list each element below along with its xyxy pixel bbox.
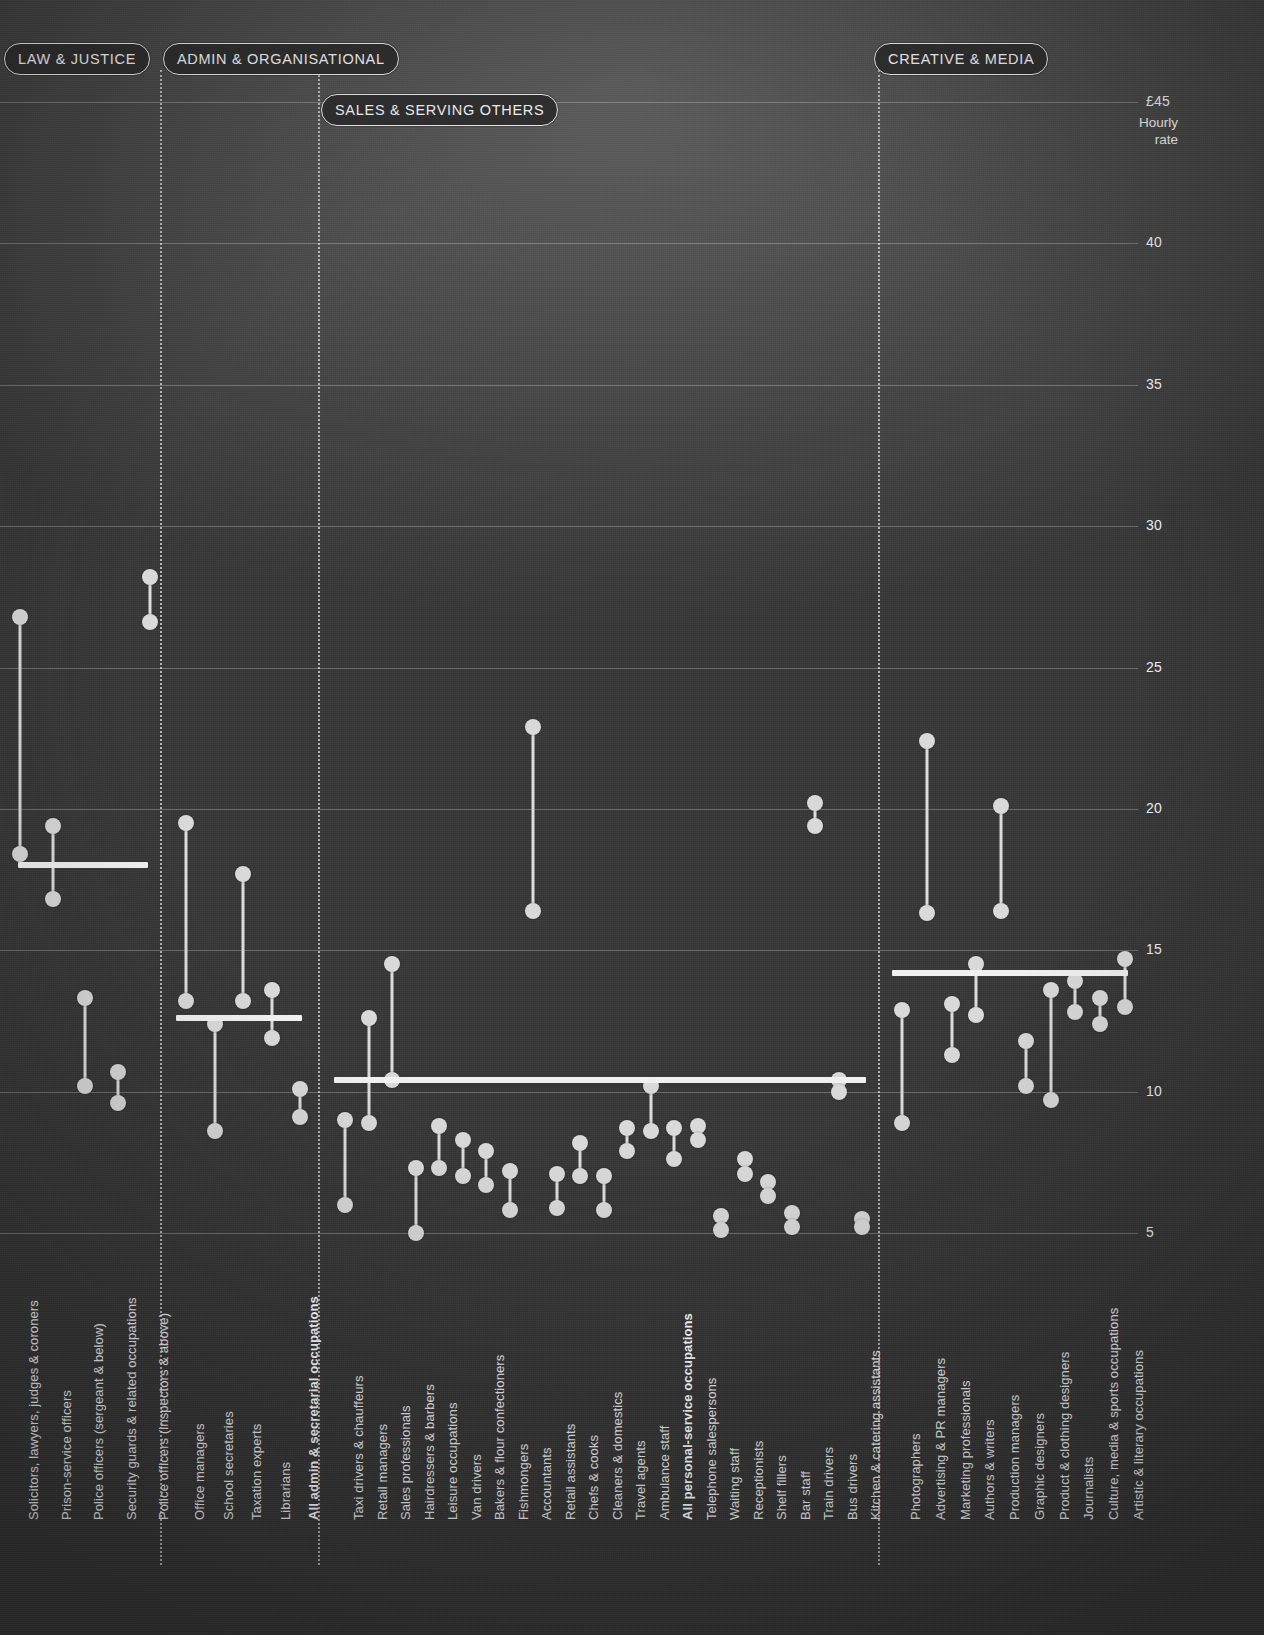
data-point-high[interactable]: [142, 569, 158, 585]
data-point-low[interactable]: [142, 614, 158, 630]
data-point-low[interactable]: [207, 1123, 223, 1139]
dumbbell-stem: [925, 741, 928, 913]
data-point-low[interactable]: [110, 1095, 126, 1111]
data-point-high[interactable]: [1018, 1033, 1034, 1049]
data-point-high[interactable]: [666, 1120, 682, 1136]
group-chip-admin[interactable]: ADMIN & ORGANISATIONAL: [163, 43, 399, 75]
data-point-low[interactable]: [760, 1188, 776, 1204]
data-point-high[interactable]: [455, 1132, 471, 1148]
data-point-high[interactable]: [549, 1166, 565, 1182]
group-chip-law[interactable]: LAW & JUSTICE: [4, 43, 150, 75]
data-point-high[interactable]: [12, 609, 28, 625]
data-point-high[interactable]: [502, 1163, 518, 1179]
data-point-high[interactable]: [292, 1081, 308, 1097]
data-point-low[interactable]: [666, 1151, 682, 1167]
x-axis-label: Chefs & cooks: [586, 1435, 601, 1520]
data-point-low[interactable]: [807, 818, 823, 834]
dumbbell-stem: [84, 998, 87, 1086]
data-point-high[interactable]: [110, 1064, 126, 1080]
data-point-low[interactable]: [478, 1177, 494, 1193]
data-point-high[interactable]: [919, 733, 935, 749]
data-point-low[interactable]: [408, 1225, 424, 1241]
data-point-high[interactable]: [1092, 990, 1108, 1006]
data-point-low[interactable]: [713, 1222, 729, 1238]
data-point-low[interactable]: [77, 1078, 93, 1094]
data-point-high[interactable]: [572, 1135, 588, 1151]
y-axis-tick-10: 10: [1146, 1083, 1162, 1099]
gridline-35: [0, 385, 1138, 386]
group-chip-sales[interactable]: SALES & SERVING OTHERS: [321, 94, 558, 126]
x-axis-label: School secretaries: [221, 1411, 236, 1520]
data-point-low[interactable]: [264, 1030, 280, 1046]
data-point-low[interactable]: [549, 1200, 565, 1216]
data-point-low[interactable]: [737, 1166, 753, 1182]
data-point-low[interactable]: [431, 1160, 447, 1176]
data-point-high[interactable]: [1117, 951, 1133, 967]
y-axis-tick-40: 40: [1146, 234, 1162, 250]
x-axis-label: Receptionists: [751, 1441, 766, 1520]
data-point-high[interactable]: [944, 996, 960, 1012]
data-point-high[interactable]: [384, 956, 400, 972]
data-point-low[interactable]: [178, 993, 194, 1009]
group-average-line: [18, 862, 148, 868]
data-point-low[interactable]: [690, 1132, 706, 1148]
data-point-high[interactable]: [178, 815, 194, 831]
data-point-low[interactable]: [993, 903, 1009, 919]
data-point-low[interactable]: [292, 1109, 308, 1125]
data-point-low[interactable]: [1117, 999, 1133, 1015]
x-axis-label: Taxi drivers & chauffeurs: [351, 1375, 366, 1520]
gridline-20: [0, 809, 1138, 810]
x-axis-label: Bakers & flour confectioners: [492, 1355, 507, 1520]
group-divider-3: [878, 70, 880, 1565]
data-point-low[interactable]: [1018, 1078, 1034, 1094]
x-axis-label: Train drivers: [821, 1447, 836, 1520]
data-point-high[interactable]: [361, 1010, 377, 1026]
data-point-low[interactable]: [1043, 1092, 1059, 1108]
data-point-high[interactable]: [77, 990, 93, 1006]
data-point-high[interactable]: [235, 866, 251, 882]
data-point-low[interactable]: [944, 1047, 960, 1063]
x-axis-label: Production managers: [1007, 1395, 1022, 1520]
data-point-high[interactable]: [337, 1112, 353, 1128]
data-point-low[interactable]: [337, 1197, 353, 1213]
plot-area: 510152025303540£45Hourly rateLAW & JUSTI…: [0, 0, 1264, 1635]
data-point-low[interactable]: [1067, 1004, 1083, 1020]
data-point-low[interactable]: [919, 905, 935, 921]
x-axis-label: Office managers: [192, 1423, 207, 1520]
data-point-low[interactable]: [831, 1084, 847, 1100]
data-point-low[interactable]: [525, 903, 541, 919]
data-point-low[interactable]: [572, 1168, 588, 1184]
data-point-high[interactable]: [993, 798, 1009, 814]
data-point-high[interactable]: [408, 1160, 424, 1176]
data-point-low[interactable]: [455, 1168, 471, 1184]
data-point-low[interactable]: [502, 1202, 518, 1218]
data-point-low[interactable]: [235, 993, 251, 1009]
data-point-low[interactable]: [643, 1123, 659, 1139]
x-axis-label: Product & clothing designers: [1057, 1352, 1072, 1520]
data-point-low[interactable]: [596, 1202, 612, 1218]
data-point-high[interactable]: [525, 719, 541, 735]
data-point-low[interactable]: [12, 846, 28, 862]
data-point-low[interactable]: [784, 1219, 800, 1235]
data-point-high[interactable]: [596, 1168, 612, 1184]
y-axis-tick-20: 20: [1146, 800, 1162, 816]
data-point-low[interactable]: [619, 1143, 635, 1159]
data-point-high[interactable]: [894, 1002, 910, 1018]
data-point-high[interactable]: [264, 982, 280, 998]
data-point-low[interactable]: [968, 1007, 984, 1023]
data-point-high[interactable]: [431, 1118, 447, 1134]
data-point-low[interactable]: [894, 1115, 910, 1131]
x-axis-label: Security guards & related occupations: [124, 1297, 139, 1520]
data-point-low[interactable]: [45, 891, 61, 907]
x-axis-label: Authors & writers: [982, 1419, 997, 1520]
data-point-high[interactable]: [45, 818, 61, 834]
data-point-low[interactable]: [1092, 1016, 1108, 1032]
data-point-low[interactable]: [361, 1115, 377, 1131]
x-axis-label: All admin & secretarial occupations: [306, 1296, 321, 1520]
data-point-high[interactable]: [619, 1120, 635, 1136]
gridline-15: [0, 950, 1138, 951]
group-chip-creative[interactable]: CREATIVE & MEDIA: [874, 43, 1048, 75]
data-point-high[interactable]: [478, 1143, 494, 1159]
data-point-high[interactable]: [1043, 982, 1059, 998]
gridline-5: [0, 1233, 1138, 1234]
